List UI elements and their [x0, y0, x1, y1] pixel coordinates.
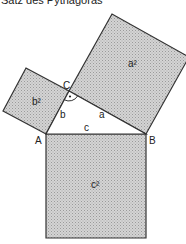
label-c-squared: c² [91, 179, 100, 190]
label-a-squared: a² [128, 58, 138, 69]
label-vertex-b: B [149, 135, 156, 146]
label-vertex-c: C [63, 80, 70, 91]
right-angle-dot [69, 95, 71, 97]
pythagoras-diagram: a² b² c² a b c A B C [0, 0, 186, 244]
label-side-b: b [60, 109, 66, 120]
label-b-squared: b² [32, 96, 42, 107]
label-side-c: c [84, 122, 89, 133]
label-side-a: a [99, 109, 105, 120]
label-vertex-a: A [35, 135, 42, 146]
